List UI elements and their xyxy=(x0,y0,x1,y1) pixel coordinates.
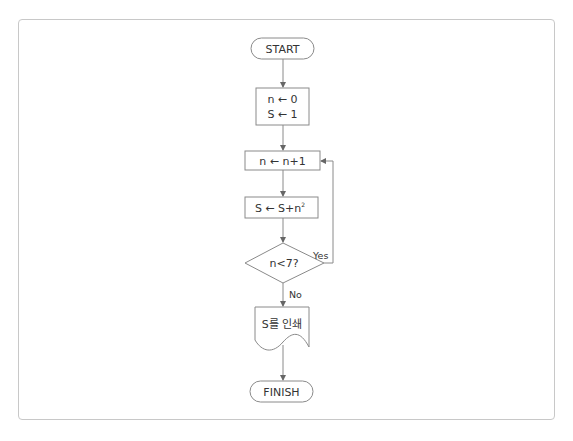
yes-label: Yes xyxy=(312,250,328,261)
condition-label: n<7? xyxy=(269,257,298,270)
accumulate-label-base: S ← S+n xyxy=(255,202,301,215)
init-line-2: S ← 1 xyxy=(267,108,297,121)
flowchart: START n ← 0 S ← 1 n ← n+1 S ← S+n2 n<7? … xyxy=(0,0,573,441)
finish-label: FINISH xyxy=(263,386,299,399)
increment-label: n ← n+1 xyxy=(259,155,305,168)
init-line-1: n ← 0 xyxy=(267,93,297,106)
accumulate-label: S ← S+n2 xyxy=(255,201,305,215)
accumulate-label-sup: 2 xyxy=(301,201,305,208)
output-label: S를 인쇄 xyxy=(262,318,302,331)
start-label: START xyxy=(266,43,300,56)
edge-condition-yes-loop xyxy=(321,161,333,263)
no-label: No xyxy=(289,289,302,300)
